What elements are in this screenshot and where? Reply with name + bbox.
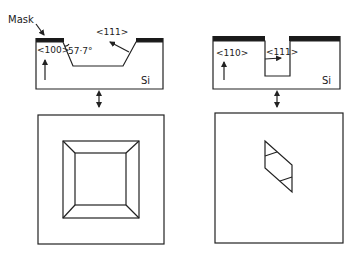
trench-inner-edge-top bbox=[265, 152, 277, 156]
sidewall-normal-arrow bbox=[110, 42, 129, 52]
pit-bottom-edge bbox=[75, 153, 126, 205]
left-plan-view bbox=[38, 115, 164, 244]
etching-diagram: Mask 57·7° <100> <111> Si <110 bbox=[0, 0, 356, 258]
pit-edge-bl bbox=[63, 205, 75, 218]
right-cross-section: <110> <111> Si bbox=[213, 36, 340, 89]
wafer-outline bbox=[38, 115, 164, 244]
silicon-substrate-outline bbox=[213, 36, 340, 89]
pit-edge-tr bbox=[126, 141, 139, 153]
trench-parallelogram bbox=[265, 141, 292, 192]
wafer-outline bbox=[215, 113, 343, 243]
angle-label: 57·7° bbox=[68, 46, 93, 56]
left-cross-section: Mask 57·7° <100> <111> Si bbox=[8, 14, 163, 89]
mask-left-bar bbox=[213, 36, 265, 41]
pit-edge-br bbox=[126, 205, 139, 218]
material-label: Si bbox=[322, 75, 331, 86]
surface-orientation-label: <110> bbox=[216, 48, 248, 58]
sidewall-orientation-label: <111> bbox=[96, 27, 128, 37]
mask-right-bar bbox=[289, 36, 340, 41]
trench-inner-edge-bottom bbox=[280, 177, 292, 181]
right-plan-view bbox=[215, 113, 343, 243]
surface-orientation-label: <100> bbox=[37, 45, 69, 55]
sidewall-normal-arrow bbox=[265, 58, 281, 59]
mask-label: Mask bbox=[8, 14, 34, 25]
mask-pointer-arrow bbox=[36, 24, 44, 35]
material-label: Si bbox=[141, 75, 150, 86]
sidewall-orientation-label: <111> bbox=[266, 47, 298, 57]
pit-edge-tl bbox=[63, 141, 75, 153]
